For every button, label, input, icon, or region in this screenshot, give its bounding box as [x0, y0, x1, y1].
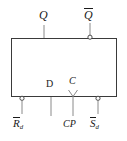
output-label-q: Q — [39, 9, 48, 21]
output-label-qbar-text: Q — [84, 8, 93, 21]
input-label-sd-text: S — [90, 117, 96, 129]
input-label-rd: Rd — [13, 117, 23, 130]
input-label-c-text: C — [69, 75, 76, 86]
input-label-cp-text: CP — [63, 118, 76, 129]
input-label-rd-text: R — [13, 117, 20, 129]
flip-flop-body — [12, 39, 117, 97]
input-label-d-text: D — [46, 78, 53, 89]
input-label-d: D — [46, 79, 53, 89]
input-label-c: C — [69, 76, 76, 86]
input-label-sd-subscript: d — [96, 123, 99, 130]
logic-symbol-diagram: Q Q D C Rd CP Sd — [0, 0, 127, 141]
rd-inversion-bubble-icon — [20, 96, 24, 100]
sd-inversion-bubble-icon — [96, 96, 100, 100]
input-label-rd-subscript: d — [20, 123, 23, 130]
output-label-qbar: Q — [84, 8, 93, 21]
qbar-inversion-bubble-icon — [88, 35, 92, 39]
output-label-q-text: Q — [39, 8, 48, 22]
input-label-sd: Sd — [90, 117, 99, 130]
input-label-cp: CP — [63, 119, 76, 129]
